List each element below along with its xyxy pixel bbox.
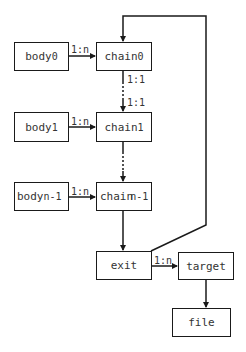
body-1-node: body1 [14, 112, 69, 142]
chain-1-node: chain1 [96, 112, 152, 142]
exit-label: exit [111, 259, 138, 272]
chain-1-label: chain [104, 121, 137, 134]
target-node: target [178, 252, 234, 280]
chain-0-node: chain0 [96, 42, 152, 71]
file-label: file [188, 316, 215, 329]
chain-n-1-node: chainn-1 [96, 182, 152, 211]
edge-label-chain1-in: 1:1 [127, 98, 145, 108]
chain-0-label: chain [104, 50, 137, 63]
chain-0-subscript: 0 [138, 51, 144, 62]
body-n-1-label: body [17, 190, 44, 203]
edge-label-body1-chain1: 1:n [71, 117, 89, 127]
body-n-1-node: bodyn-1 [14, 182, 69, 211]
chain-1-subscript: 1 [138, 122, 144, 133]
body-1-subscript: 1 [52, 122, 58, 133]
body-n-1-subscript: n-1 [44, 191, 62, 202]
diagram-canvas: body0 chain0 1:n 1:1 1:1 body1 chain1 1:… [0, 0, 246, 352]
edge-label-bodyn1-chainn1: 1:n [71, 187, 89, 197]
edge-label-body0-chain0: 1:n [71, 45, 89, 55]
exit-node: exit [96, 251, 152, 280]
chain-n-1-label: chain [100, 190, 133, 203]
body-0-subscript: 0 [52, 51, 58, 62]
edge-label-exit-target: 1:n [154, 256, 172, 266]
body-1-label: body [25, 121, 52, 134]
body-0-node: body0 [14, 42, 69, 71]
edge-label-chain0-out: 1:1 [127, 75, 145, 85]
body-0-label: body [25, 50, 52, 63]
target-label: target [186, 260, 226, 273]
file-node: file [172, 308, 231, 337]
chain-n-1-subscript: n-1 [130, 191, 148, 202]
